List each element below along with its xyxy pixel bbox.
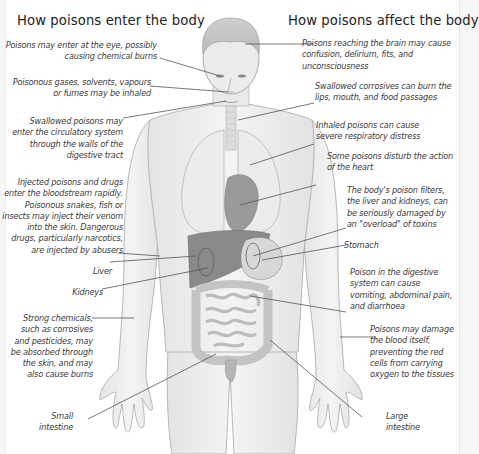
right-eye <box>238 74 246 77</box>
label-corrosives: Swallowed corrosives can burn thelips, m… <box>315 81 460 104</box>
label-small-intestine: Smallintestine <box>13 411 73 434</box>
figure-title-partial <box>14 0 19 3</box>
label-inhaled: Poisonous gases, solvents, vapoursor fum… <box>0 77 151 100</box>
label-brain: Poisons reaching the brain may causeconf… <box>302 38 462 72</box>
label-filters: The body's poison filters,the liver and … <box>347 185 462 230</box>
label-eye: Poisons may enter at the eye, possiblyca… <box>0 40 157 63</box>
heading-right: How poisons affect the body <box>288 13 479 28</box>
label-heart: Some poisons disturb the actionof the he… <box>327 151 462 174</box>
trachea <box>226 106 236 150</box>
label-digestive: Poison in the digestivesystem can cause … <box>350 267 463 312</box>
label-blood: Poisons may damagethe blood itself, prev… <box>370 324 462 380</box>
label-injected: Injected poisons and drugsenter the bloo… <box>0 177 123 256</box>
label-stomach: Stomach <box>344 240 404 251</box>
label-liver: Liver <box>52 266 112 277</box>
label-kidneys: Kidneys <box>43 287 103 298</box>
heading-left: How poisons enter the body <box>17 13 205 28</box>
label-skin: Strong chemicals,such as corrosives and … <box>0 313 93 381</box>
stomach <box>241 237 282 279</box>
label-swallowed: Swallowed poisons mayenter the circulato… <box>0 116 123 161</box>
label-respiratory: Inhaled poisons can causesevere respirat… <box>316 120 456 143</box>
label-large-intestine: Largeintestine <box>386 411 446 434</box>
